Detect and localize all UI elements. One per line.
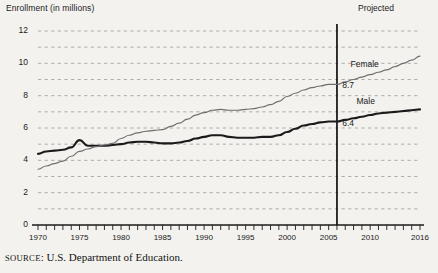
x-tick-label: 1995	[229, 233, 263, 242]
y-tick-label: 6	[8, 122, 28, 132]
x-tick-label: 1990	[187, 233, 221, 242]
x-tick-label: 2016	[403, 233, 437, 242]
series-label-male: Male	[356, 96, 374, 106]
x-tick-label: 1980	[104, 233, 138, 242]
series-label-female: Female	[350, 59, 378, 69]
y-tick-label: 10	[8, 57, 28, 67]
source-note: SOURCE: U.S. Department of Education.	[5, 251, 183, 263]
x-tick-label: 1975	[63, 233, 97, 242]
source-text: : U.S. Department of Education.	[41, 251, 183, 263]
y-tick-label: 8	[8, 90, 28, 100]
y-tick-label: 0	[8, 219, 28, 229]
x-tick-label: 1985	[146, 233, 180, 242]
y-tick-label: 12	[8, 25, 28, 35]
y-tick-label: 4	[8, 154, 28, 164]
y-tick-label: 2	[8, 187, 28, 197]
x-tick-label: 2010	[353, 233, 387, 242]
value-label-female: 8.7	[342, 80, 354, 90]
x-tick-label: 1970	[21, 233, 55, 242]
chart-figure: Enrollment (in millions) Projected Femal…	[0, 0, 438, 273]
value-label-male: 6.4	[342, 118, 354, 128]
x-tick-label: 2000	[270, 233, 304, 242]
x-tick-label: 2005	[312, 233, 346, 242]
source-prefix: SOURCE	[5, 253, 41, 263]
